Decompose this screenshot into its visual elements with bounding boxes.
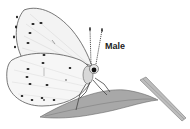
sex-label: Male [105, 41, 125, 51]
butterfly-illustration [0, 0, 190, 129]
